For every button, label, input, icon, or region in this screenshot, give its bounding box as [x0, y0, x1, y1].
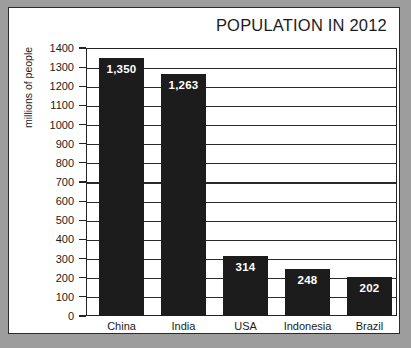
x-tick-label: India — [153, 320, 214, 332]
y-tick-mark — [79, 67, 86, 68]
bar: 248 — [285, 269, 330, 316]
x-axis: ChinaIndiaUSAIndonesiaBrazil — [86, 318, 397, 340]
y-tick-label: 700 — [56, 176, 74, 188]
bar-value-label: 1,263 — [161, 79, 206, 91]
y-tick-mark — [79, 315, 86, 316]
y-tick-label: 600 — [56, 195, 74, 207]
y-tick-mark — [79, 124, 86, 125]
bar: 1,350 — [99, 58, 144, 316]
y-tick-mark — [79, 239, 86, 240]
x-tick-label: USA — [215, 320, 276, 332]
y-tick-label: 800 — [56, 157, 74, 169]
y-tick-mark — [79, 86, 86, 87]
y-tick-label: 200 — [56, 272, 74, 284]
y-tick-label: 1300 — [50, 61, 74, 73]
y-tick-mark — [79, 258, 86, 259]
y-tick-label: 1200 — [50, 80, 74, 92]
y-tick-mark — [79, 143, 86, 144]
y-tick-label: 1400 — [50, 42, 74, 54]
y-tick-mark — [79, 220, 86, 221]
x-tick-label: Brazil — [339, 320, 400, 332]
y-tick-label: 500 — [56, 214, 74, 226]
y-tick-label: 1000 — [50, 119, 74, 131]
chart-card: POPULATION IN 2012 millions of people 14… — [8, 7, 400, 334]
y-tick-mark — [79, 201, 86, 202]
y-tick-mark — [79, 181, 86, 182]
y-tick-label: 1100 — [50, 99, 74, 111]
bar-series: 1,3501,263314248202 — [86, 48, 397, 316]
y-tick-mark — [79, 162, 86, 163]
y-tick-mark — [79, 47, 86, 48]
bar: 314 — [223, 256, 268, 316]
y-tick-label: 300 — [56, 253, 74, 265]
bar: 1,263 — [161, 74, 206, 316]
x-tick-label: China — [91, 320, 152, 332]
bar-value-label: 202 — [347, 282, 392, 294]
y-axis: 1400130012001100100090080070060050040030… — [9, 48, 86, 316]
y-tick-label: 900 — [56, 138, 74, 150]
bar-value-label: 314 — [223, 261, 268, 273]
chart-title: POPULATION IN 2012 — [216, 16, 387, 35]
x-tick-label: Indonesia — [277, 320, 338, 332]
y-tick-label: 400 — [56, 233, 74, 245]
bar-value-label: 1,350 — [99, 63, 144, 75]
y-tick-label: 100 — [56, 291, 74, 303]
bar: 202 — [347, 277, 392, 316]
page-background: POPULATION IN 2012 millions of people 14… — [0, 0, 411, 348]
y-tick-label: 0 — [68, 310, 74, 322]
y-tick-mark — [79, 105, 86, 106]
y-tick-mark — [79, 277, 86, 278]
bar-value-label: 248 — [285, 274, 330, 286]
y-tick-mark — [79, 296, 86, 297]
